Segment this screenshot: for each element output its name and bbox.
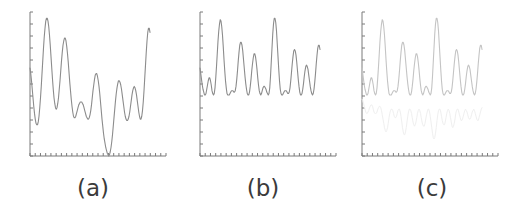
- plot-b: [178, 0, 348, 172]
- axes-c: [362, 12, 498, 156]
- plot-svg-b: [178, 0, 348, 172]
- panel-caption-b: (b): [178, 174, 348, 202]
- panel-b: (b): [178, 0, 348, 206]
- data-trace-b: [200, 18, 320, 95]
- plot-a: [8, 0, 178, 172]
- panel-c: (c): [340, 0, 524, 206]
- plot-svg-c: [340, 0, 524, 172]
- data-trace-a: [30, 18, 150, 156]
- figure-three-panel-plots: (a) (b) (c): [0, 0, 524, 206]
- axes-b: [200, 12, 336, 156]
- axes-a: [30, 12, 166, 156]
- plot-svg-a: [8, 0, 178, 172]
- panel-caption-c: (c): [340, 174, 524, 202]
- data-trace-c: [362, 18, 482, 95]
- plot-c: [340, 0, 524, 172]
- panel-caption-a: (a): [8, 174, 178, 202]
- panel-a: (a): [8, 0, 178, 206]
- ghost-trace-c: [362, 99, 482, 139]
